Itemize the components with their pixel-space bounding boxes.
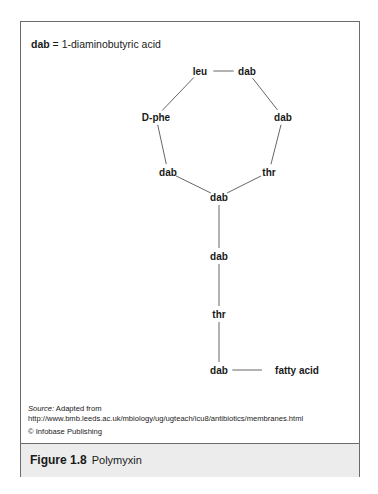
residue-dab5: dab: [210, 251, 228, 262]
source-label: Source:: [28, 404, 54, 413]
bond-line: [176, 176, 211, 193]
residue-dab2: dab: [274, 112, 292, 123]
source-text: Adapted from: [54, 404, 101, 413]
source-url[interactable]: http://www.bmb.leeds.ac.uk/mbiology/ug/u…: [28, 414, 303, 423]
bond-line: [253, 78, 278, 110]
residue-dab6: dab: [210, 365, 228, 376]
figure-title: Polymyxin: [92, 454, 142, 466]
residue-dab4: dab: [159, 167, 177, 178]
residue-dab1: dab: [238, 66, 256, 77]
residue-fatty: fatty acid: [275, 365, 319, 376]
bond-line: [158, 125, 167, 164]
bonds: [158, 71, 281, 370]
residue-leu: leu: [193, 66, 207, 77]
residue-thr2: thr: [212, 309, 225, 320]
residue-dab3: dab: [210, 192, 228, 203]
copyright: © Infobase Publishing: [28, 427, 102, 436]
figure-number: Figure 1.8: [30, 453, 87, 467]
figure-caption-bar: Figure 1.8Polymyxin: [21, 443, 359, 477]
figure-caption: Figure 1.8Polymyxin: [30, 453, 142, 467]
bond-line: [227, 176, 261, 193]
source-note: Source: Adapted from http://www.bmb.leed…: [28, 404, 358, 424]
residues: leudabdabthrdabdabD-phedabthrdabfatty ac…: [142, 66, 319, 376]
residue-thr1: thr: [262, 167, 275, 178]
polymyxin-diagram: leudabdabthrdabdabD-phedabthrdabfatty ac…: [21, 22, 361, 442]
bond-line: [271, 125, 281, 164]
residue-dphe: D-phe: [142, 112, 171, 123]
bond-line: [162, 78, 194, 111]
figure-frame: dab = 1-diaminobutyric acid leudabdabthr…: [20, 21, 360, 477]
